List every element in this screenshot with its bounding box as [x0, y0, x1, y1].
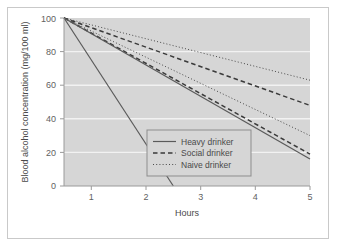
x-tick-label-1: 1: [89, 192, 94, 202]
x-tick-marks: [91, 186, 310, 190]
x-tick-label-4: 4: [253, 192, 258, 202]
y-tick-marks: [60, 18, 64, 186]
y-axis-title: Blood alcohol concentration (mg/100 ml): [20, 21, 30, 182]
legend-label-heavy-drinker: Heavy drinker: [181, 137, 234, 147]
y-tick-label-80: 80: [46, 47, 56, 57]
x-tick-label-2: 2: [143, 192, 148, 202]
y-tick-label-40: 40: [46, 114, 56, 124]
chart-legend: Heavy drinker Social drinker Naive drink…: [147, 130, 251, 176]
y-tick-label-60: 60: [46, 80, 56, 90]
legend-label-social-drinker: Social drinker: [181, 148, 233, 158]
legend-label-naive-drinker: Naive drinker: [181, 160, 231, 170]
x-axis-title: Hours: [175, 208, 200, 218]
y-tick-label-0: 0: [51, 181, 56, 191]
x-tick-label-3: 3: [198, 192, 203, 202]
y-tick-label-100: 100: [41, 14, 56, 24]
blood-alcohol-line-chart: 0 20 40 60 80 100 1 2 3 4 5 Hours Blood …: [0, 0, 337, 247]
y-tick-label-20: 20: [46, 148, 56, 158]
x-tick-label-5: 5: [307, 192, 312, 202]
figure-container: 0 20 40 60 80 100 1 2 3 4 5 Hours Blood …: [0, 0, 337, 247]
